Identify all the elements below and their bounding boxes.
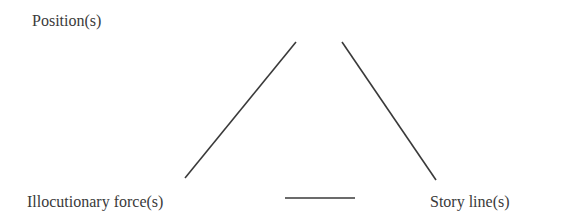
node-story-line-label: Story line(s) — [430, 193, 510, 211]
node-illocutionary-force-label: Illocutionary force(s) — [27, 193, 163, 211]
positioning-triangle-diagram: Position(s) Illocutionary force(s) Story… — [0, 0, 565, 222]
diagram-edges — [0, 0, 565, 222]
node-position-label: Position(s) — [32, 12, 101, 30]
edge-position-illocutionary-force — [185, 42, 296, 178]
edge-position-story-line — [342, 42, 436, 180]
